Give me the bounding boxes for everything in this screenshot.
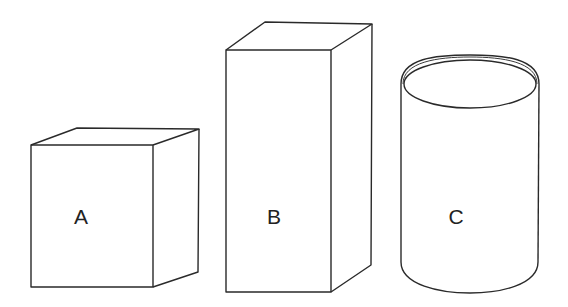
shape-c-cylinder	[401, 55, 539, 293]
label-b: B	[267, 206, 281, 227]
cube-a-front-face	[31, 145, 153, 287]
cylinder-c-bottom-curve	[401, 262, 538, 293]
shapes-diagram	[0, 0, 568, 307]
shape-a-cube	[31, 128, 199, 287]
shape-b-prism	[226, 22, 372, 292]
prism-b-top-face	[226, 22, 372, 50]
prism-b-front-face	[226, 50, 331, 292]
cube-a-side-face	[153, 129, 199, 287]
label-a: A	[74, 206, 88, 227]
cube-a-top-face	[31, 128, 199, 145]
label-c: C	[448, 206, 463, 227]
cylinder-c-right-edge	[538, 84, 539, 262]
cylinder-c-rim-inner	[403, 57, 537, 84]
cylinder-c-top-ellipse	[404, 60, 536, 108]
prism-b-side-face	[331, 24, 372, 292]
